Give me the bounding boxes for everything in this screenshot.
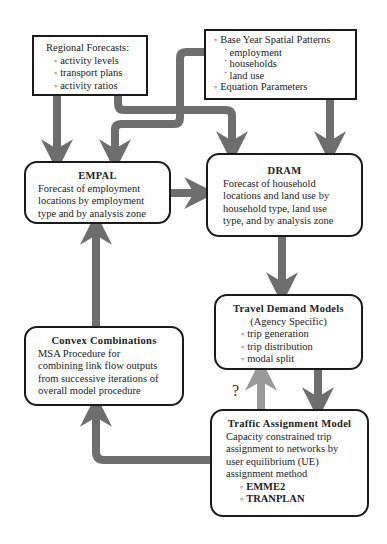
traffic-line: user equilibrium (UE) — [226, 456, 367, 469]
dram-line: household type, land use — [223, 203, 361, 216]
dram-line: type, and by analysis zone — [223, 215, 361, 228]
arrow-regional-to-dram — [118, 95, 232, 144]
traffic-item: TRANPLAN — [240, 493, 367, 506]
question-mark-label: ? — [232, 382, 239, 400]
traffic-assignment-title: Traffic Assignment Model — [212, 418, 367, 431]
dram-title: DRAM — [208, 165, 361, 178]
regional-item: activity levels — [54, 55, 146, 68]
regional-forecasts-title: Regional Forecasts: — [46, 42, 146, 55]
travel-demand-box: Travel Demand Models (Agency Specific) t… — [214, 294, 363, 370]
convex-combinations-box: Convex Combinations MSA Procedure for co… — [24, 326, 184, 406]
arrow-traffic-to-convex — [96, 414, 210, 460]
empal-box: EMPAL Forecast of employment locations b… — [24, 161, 171, 224]
regional-item: activity ratios — [54, 80, 146, 93]
traffic-item: EMME2 — [240, 481, 367, 494]
base-year-sub-item: employment — [224, 47, 355, 59]
equation-parameters: Equation Parameters — [214, 81, 355, 94]
empal-line: type and by analysis zone — [38, 208, 169, 221]
travel-demand-item: trip generation — [241, 328, 361, 341]
convex-title: Convex Combinations — [26, 335, 182, 348]
base-year-sub-item: households — [224, 58, 355, 70]
convex-line: combining link flow outputs — [38, 360, 182, 373]
travel-demand-subtitle: (Agency Specific) — [216, 316, 361, 329]
empal-line: locations by employment — [38, 195, 169, 208]
empal-title: EMPAL — [26, 170, 169, 183]
dram-line: locations and land use by — [223, 190, 361, 203]
convex-line: MSA Procedure for — [38, 348, 182, 361]
empal-line: Forecast of employment — [38, 183, 169, 196]
travel-demand-title: Travel Demand Models — [216, 303, 361, 316]
convex-line: from successive iterations of — [38, 373, 182, 386]
dram-line: Forecast of household — [223, 178, 361, 191]
base-year-heading: Base Year Spatial Patterns — [214, 34, 355, 47]
base-year-sub-item: land use — [224, 70, 355, 82]
traffic-line: assignment to networks by — [226, 443, 367, 456]
convex-line: overall model procedure — [38, 385, 182, 398]
traffic-line: assignment method — [226, 468, 367, 481]
regional-item: transport plans — [54, 67, 146, 80]
travel-demand-item: modal split — [241, 353, 361, 366]
travel-demand-item: trip distribution — [241, 341, 361, 354]
base-year-box: Base Year Spatial Patterns employment ho… — [204, 29, 357, 100]
traffic-assignment-box: Traffic Assignment Model Capacity constr… — [210, 409, 369, 517]
regional-forecasts-box: Regional Forecasts: activity levels tran… — [32, 35, 148, 96]
dram-box: DRAM Forecast of household locations and… — [206, 153, 363, 237]
traffic-line: Capacity constrained trip — [226, 431, 367, 444]
